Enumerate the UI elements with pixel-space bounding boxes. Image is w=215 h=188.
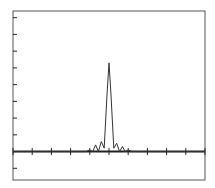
y-axis-ticks xyxy=(13,18,17,169)
signal-line xyxy=(13,63,205,152)
chart xyxy=(0,0,215,188)
